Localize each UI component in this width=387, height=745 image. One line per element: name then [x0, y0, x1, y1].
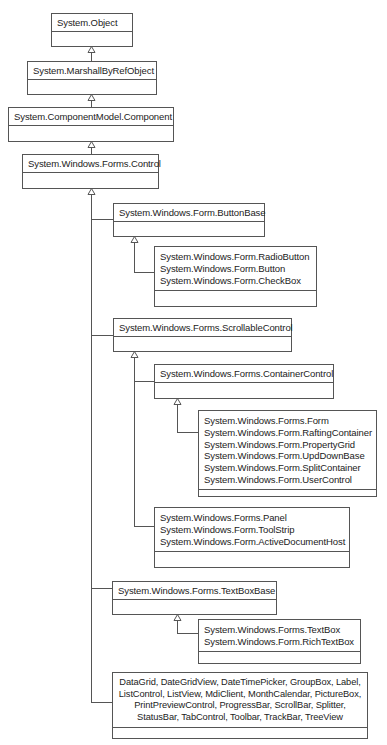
class-box-control: System.Windows.Forms.Control	[22, 154, 159, 189]
class-name: System.Windows.Forms.TextBox System.Wind…	[199, 620, 360, 652]
class-box-other-controls: DataGrid, DateGridView, DateTimePicker, …	[112, 672, 368, 739]
class-box-button-base: System.Windows.Form.ButtonBase	[113, 203, 265, 237]
class-name: System.Windows.Forms.Panel System.Window…	[155, 508, 349, 552]
class-name: System.Windows.Form.RadioButton System.W…	[155, 247, 316, 291]
class-name: System.ComponentModel.Component	[9, 108, 173, 126]
class-name: System.Windows.Forms.ContainerControl	[155, 365, 333, 383]
class-box-scrollable-control: System.Windows.Forms.ScrollableControl	[113, 318, 292, 352]
class-box-text-boxes-group: System.Windows.Forms.TextBox System.Wind…	[198, 619, 361, 664]
class-box-forms-group: System.Windows.Forms.Form System.Windows…	[198, 410, 377, 497]
class-name: System.Windows.Form.ButtonBase	[114, 204, 264, 222]
class-box-container-control: System.Windows.Forms.ContainerControl	[154, 364, 334, 399]
class-box-system-object: System.Object	[51, 13, 133, 47]
class-box-marshall-by-ref-object: System.MarshallByRefObject	[27, 61, 157, 95]
class-box-buttons-group: System.Windows.Form.RadioButton System.W…	[154, 246, 317, 307]
class-box-panels-group: System.Windows.Forms.Panel System.Window…	[154, 507, 350, 568]
class-name: System.Windows.Forms.Control	[23, 155, 158, 173]
class-name: System.MarshallByRefObject	[28, 62, 156, 80]
class-box-text-box-base: System.Windows.Forms.TextBoxBase	[112, 581, 277, 615]
class-name: System.Windows.Forms.ScrollableControl	[114, 319, 291, 337]
class-name: System.Windows.Forms.Form System.Windows…	[199, 411, 376, 490]
class-name: System.Windows.Forms.TextBoxBase	[113, 582, 276, 600]
class-name: System.Object	[52, 14, 132, 32]
class-name: DataGrid, DateGridView, DateTimePicker, …	[113, 673, 367, 728]
class-box-component: System.ComponentModel.Component	[8, 107, 174, 142]
